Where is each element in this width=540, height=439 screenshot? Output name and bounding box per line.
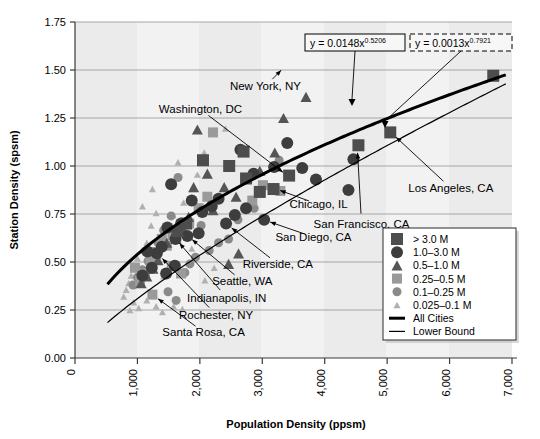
x-tick-label: 3,000 [252, 369, 264, 397]
data-point [310, 173, 322, 185]
data-point [229, 209, 241, 221]
annotation-label: Los Angeles, CA [408, 182, 493, 194]
y-tick-label: 0.25 [45, 304, 66, 316]
annotation-label: New York, NY [230, 80, 301, 92]
x-tick-label: 4,000 [315, 369, 327, 397]
x-tick-label: 2,000 [190, 369, 202, 397]
x-tick-label: 6,000 [440, 369, 452, 397]
annotation-label: Chicago, IL [289, 198, 348, 210]
data-point [202, 192, 212, 202]
annotation-label: Riverside, CA [243, 258, 314, 270]
x-tick-label: 1,000 [127, 369, 139, 397]
y-tick-label: 1.00 [45, 160, 66, 172]
data-point [342, 184, 354, 196]
all-cities-equation-exponent: 0.5206 [365, 37, 387, 44]
x-tick-label: 0 [65, 369, 77, 375]
legend-label-1[interactable]: 1.0–3.0 M [413, 246, 460, 258]
annotation-label: Seattle, WA [212, 275, 273, 287]
data-point [197, 154, 209, 166]
data-point [352, 139, 364, 151]
legend-label-2[interactable]: 0.5–1.0 M [413, 259, 460, 271]
legend-label-3[interactable]: 0.25–0.5 M [413, 273, 466, 285]
data-point [281, 137, 293, 149]
chart-legend[interactable]: > 3.0 M1.0–3.0 M0.5–1.0 M0.25–0.5 M0.1–0… [383, 228, 519, 343]
station-density-scatter-chart: 0.000.250.500.751.001.251.501.75 01,0002… [0, 0, 540, 439]
x-axis-title: Population Density (ppsm) [226, 418, 366, 430]
legend-label-7[interactable]: Lower Bound [413, 325, 475, 337]
data-point [296, 162, 308, 174]
data-point [384, 126, 396, 138]
y-tick-label: 0.00 [45, 352, 66, 364]
y-tick-label: 0.75 [45, 208, 66, 220]
data-point [254, 186, 266, 198]
legend-label-6[interactable]: All Cities [413, 312, 454, 324]
data-point [238, 146, 250, 158]
annotation-label: Washington, DC [159, 103, 242, 115]
data-point [193, 227, 205, 239]
chart-canvas: 0.000.250.500.751.001.251.501.75 01,0002… [0, 0, 540, 439]
x-tick-label: 7,000 [502, 369, 514, 397]
data-point [208, 127, 218, 137]
legend-marker-1 [391, 246, 403, 258]
legend-marker-4 [393, 287, 402, 296]
lower-bound-equation-exponent: 0.7921 [470, 37, 492, 44]
data-point [164, 287, 173, 296]
data-point [167, 211, 176, 220]
legend-label-5[interactable]: 0.025–0.1 M [413, 299, 471, 311]
data-point [165, 178, 177, 190]
data-point [283, 170, 295, 182]
x-tick-label: 5,000 [377, 369, 389, 397]
y-tick-label: 1.25 [45, 112, 66, 124]
data-point [146, 262, 158, 274]
data-point [136, 269, 148, 281]
legend-marker-0 [391, 233, 403, 245]
data-point [240, 202, 252, 214]
legend-label-0[interactable]: > 3.0 M [413, 233, 448, 245]
data-point [172, 296, 181, 305]
y-axis-ticks: 0.000.250.500.751.001.251.501.75 [45, 16, 75, 364]
data-point [220, 218, 232, 230]
legend-marker-3 [392, 274, 402, 284]
y-tick-label: 1.75 [45, 16, 66, 28]
data-point [186, 195, 198, 207]
data-point [268, 183, 280, 195]
legend-label-4[interactable]: 0.1–0.25 M [413, 286, 466, 298]
annotation-label: Indianapolis, IN [187, 292, 266, 304]
annotation-label: Rochester, NY [179, 309, 253, 321]
y-axis-title: Station Density (spsm) [8, 130, 20, 250]
x-axis-ticks: 01,0002,0003,0004,0005,0006,0007,000 [65, 358, 514, 397]
data-point [147, 290, 157, 300]
annotation-label: Santa Rosa, CA [162, 326, 245, 338]
y-tick-label: 0.50 [45, 256, 66, 268]
annotation-label: San Diego, CA [275, 231, 351, 243]
y-tick-label: 1.50 [45, 64, 66, 76]
data-point [223, 160, 235, 172]
